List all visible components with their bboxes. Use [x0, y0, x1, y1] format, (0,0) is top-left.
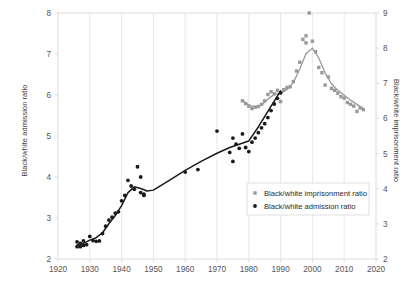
chart-legend: Black/white imprisonment ratioBlack/whit…	[247, 183, 369, 215]
svg-text:Black/white admission ratio: Black/white admission ratio	[264, 202, 356, 211]
svg-text:7: 7	[46, 50, 51, 59]
svg-text:1970: 1970	[208, 265, 227, 274]
svg-text:4: 4	[383, 185, 388, 194]
series-admission-trend	[77, 91, 281, 245]
svg-text:5: 5	[46, 132, 51, 141]
series-admission-points	[75, 91, 282, 249]
svg-text:2: 2	[46, 255, 51, 264]
chart-plot-area: 1920193019401950196019701980199020002010…	[0, 0, 417, 284]
svg-text:4: 4	[46, 173, 51, 182]
svg-text:7: 7	[383, 79, 388, 88]
svg-text:1980: 1980	[240, 265, 259, 274]
svg-text:5: 5	[383, 150, 388, 159]
svg-text:1940: 1940	[112, 265, 131, 274]
x-axis-ticks: 1920193019401950196019701980199020002010…	[49, 259, 386, 274]
chart-figure: Black/white admission ratio Black/white …	[0, 0, 417, 284]
svg-text:1930: 1930	[81, 265, 100, 274]
svg-text:3: 3	[383, 220, 388, 229]
y-axis-left-ticks: 2345678	[46, 9, 58, 264]
svg-text:2020: 2020	[367, 265, 386, 274]
svg-text:2000: 2000	[303, 265, 322, 274]
svg-text:Black/white imprisonment ratio: Black/white imprisonment ratio	[264, 189, 367, 198]
y-axis-right-ticks: 23456789	[376, 9, 388, 264]
grid-lines	[90, 13, 344, 259]
svg-text:9: 9	[383, 9, 388, 18]
svg-text:1990: 1990	[271, 265, 290, 274]
svg-text:3: 3	[46, 214, 51, 223]
svg-text:1920: 1920	[49, 265, 68, 274]
svg-text:2010: 2010	[335, 265, 354, 274]
svg-text:6: 6	[383, 114, 388, 123]
svg-text:1960: 1960	[176, 265, 195, 274]
svg-text:8: 8	[46, 9, 51, 18]
svg-text:1950: 1950	[144, 265, 163, 274]
svg-text:2: 2	[383, 255, 388, 264]
svg-text:8: 8	[383, 44, 388, 53]
svg-text:6: 6	[46, 91, 51, 100]
